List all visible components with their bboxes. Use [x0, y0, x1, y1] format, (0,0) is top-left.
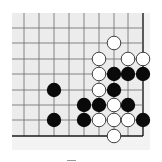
- board-background: [12, 13, 150, 150]
- black-stone: [121, 98, 135, 112]
- black-stone: [77, 98, 91, 112]
- white-stone: [107, 129, 121, 143]
- white-stone: [92, 113, 106, 127]
- black-stone: [136, 113, 150, 127]
- black-stone: [107, 83, 121, 97]
- black-stone: [136, 67, 150, 81]
- caption-dash: [67, 160, 76, 161]
- black-stone: [92, 98, 106, 112]
- white-stone: [92, 83, 106, 97]
- white-stone: [92, 52, 106, 66]
- white-stone: [107, 98, 121, 112]
- black-stone: [47, 113, 61, 127]
- white-stone: [121, 52, 135, 66]
- white-stone: [107, 113, 121, 127]
- white-stone: [121, 113, 135, 127]
- white-stone: [136, 52, 150, 66]
- black-stone: [47, 83, 61, 97]
- white-stone: [92, 67, 106, 81]
- go-board-diagram: [0, 0, 162, 162]
- white-stone: [107, 36, 121, 50]
- black-stone: [77, 113, 91, 127]
- black-stone: [107, 67, 121, 81]
- black-stone: [121, 67, 135, 81]
